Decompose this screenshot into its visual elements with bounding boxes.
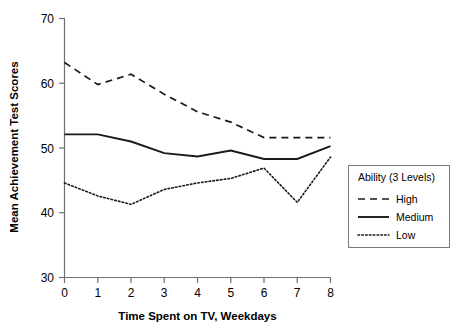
x-tick-label-0: 0 [61,286,68,300]
data-series [65,63,331,205]
x-tick-label-5: 5 [227,286,234,300]
y-axis-title: Mean Achievement Test Scores [8,61,20,232]
y-tick-label-50: 50 [41,142,55,156]
y-tick-marks [59,19,65,278]
x-tick-marks [65,278,331,284]
x-tick-label-1: 1 [94,286,101,300]
legend: Ability (3 Levels) High Medium Low [349,166,450,248]
x-axis-title: Time Spent on TV, Weekdays [118,310,276,322]
chart-figure: 70 60 50 40 30 0 1 2 3 4 5 6 7 [0,0,459,334]
x-tick-label-6: 6 [261,286,268,300]
y-tick-label-30: 30 [41,271,55,285]
x-tick-labels: 0 1 2 3 4 5 6 7 8 [61,286,334,300]
legend-label-medium: Medium [396,211,434,223]
series-line-high [65,63,331,138]
y-tick-labels: 70 60 50 40 30 [41,12,55,285]
series-line-low [65,157,331,204]
plot-axes [65,18,331,278]
y-tick-label-60: 60 [41,77,55,91]
series-line-medium [65,134,331,159]
x-tick-label-7: 7 [294,286,301,300]
y-tick-label-40: 40 [41,206,55,220]
y-tick-label-70: 70 [41,12,55,26]
legend-label-high: High [396,193,418,205]
x-tick-label-4: 4 [194,286,201,300]
x-tick-label-8: 8 [327,286,334,300]
line-chart: 70 60 50 40 30 0 1 2 3 4 5 6 7 [0,0,459,334]
legend-title: Ability (3 Levels) [358,171,435,183]
legend-label-low: Low [396,229,416,241]
x-tick-label-2: 2 [128,286,135,300]
x-tick-label-3: 3 [161,286,168,300]
